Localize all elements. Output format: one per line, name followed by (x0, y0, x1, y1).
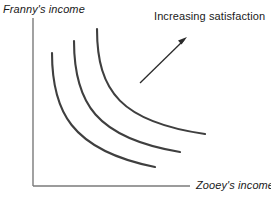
y-axis-label: Franny's income (3, 3, 85, 15)
indifference-curve-1 (52, 53, 155, 167)
arrow-shaft (140, 40, 184, 83)
increasing-satisfaction-label: Increasing satisfaction (154, 10, 265, 22)
indifference-curve-figure: Franny's income Zooey's income Increasin… (0, 0, 271, 205)
indifference-curve-2 (74, 41, 180, 152)
arrow-head-icon (178, 37, 187, 45)
indifference-curve-3 (97, 29, 205, 134)
increasing-satisfaction-arrow (140, 37, 187, 83)
plot-canvas (0, 0, 271, 205)
x-axis-label: Zooey's income (196, 179, 271, 191)
